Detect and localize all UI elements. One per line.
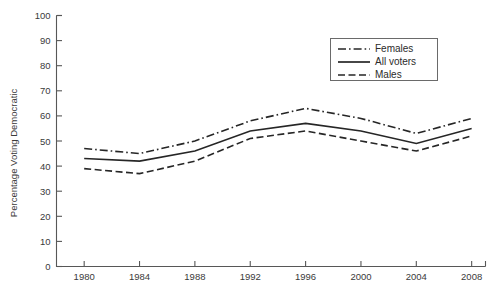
series-line-all-voters [84, 123, 471, 161]
y-tick-label: 10 [40, 236, 51, 247]
chart-figure: Percentage Voting Democratic 01020304050… [0, 0, 504, 304]
x-tick-label: 2000 [350, 271, 371, 282]
legend-label-all-voters: All voters [375, 56, 416, 67]
y-tick-label: 50 [40, 136, 51, 147]
legend-label-males: Males [375, 69, 402, 80]
y-tick-label: 100 [35, 10, 51, 21]
y-tick-label: 30 [40, 186, 51, 197]
y-axis-label: Percentage Voting Democratic [8, 89, 19, 218]
y-tick-label: 80 [40, 60, 51, 71]
line-chart: Percentage Voting Democratic 01020304050… [0, 0, 504, 304]
legend-label-females: Females [375, 43, 413, 54]
y-tick-label: 40 [40, 161, 51, 172]
x-tick-label: 1980 [74, 271, 95, 282]
y-axis-ticks: 0102030405060708090100 [35, 10, 62, 272]
y-tick-label: 20 [40, 211, 51, 222]
y-tick-label: 70 [40, 85, 51, 96]
x-tick-label: 2008 [461, 271, 482, 282]
y-tick-label: 60 [40, 110, 51, 121]
x-tick-label: 1988 [184, 271, 205, 282]
x-axis-ticks: 19801984198819921996200020042008 [74, 261, 483, 282]
data-series-group [84, 108, 471, 173]
y-tick-label: 0 [45, 261, 50, 272]
x-tick-label: 1996 [295, 271, 316, 282]
x-tick-label: 1992 [240, 271, 261, 282]
y-axis-title: Percentage Voting Democratic [8, 89, 19, 218]
x-tick-label: 2004 [406, 271, 427, 282]
chart-legend: FemalesAll votersMales [331, 39, 438, 81]
y-tick-label: 90 [40, 35, 51, 46]
x-tick-label: 1984 [129, 271, 150, 282]
series-line-females [84, 108, 471, 153]
